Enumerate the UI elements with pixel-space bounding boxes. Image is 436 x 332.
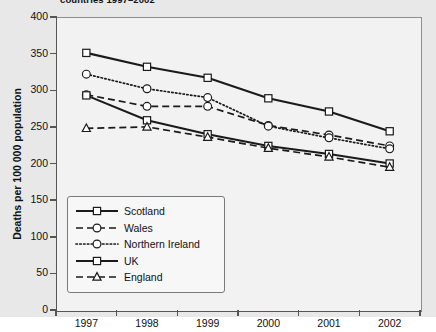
y-axis-tick-label: 300 [14,83,48,95]
y-axis-tick-mark [50,199,57,201]
y-axis-tick-mark [50,236,57,238]
y-axis-tick-mark [50,163,57,165]
x-axis-tick-label: 2001 [304,317,354,329]
y-axis-tick-label: 50 [14,266,48,278]
data-point-marker [386,145,394,153]
x-axis-tick-label: 2000 [243,317,293,329]
y-axis-tick-label: 200 [14,157,48,169]
x-axis-tick-mark [177,310,179,316]
y-axis-tick-label: 400 [14,10,48,22]
x-axis-tick-mark [359,310,361,316]
legend-item-label: Scotland [124,205,165,217]
y-axis-tick-mark [50,16,57,18]
x-axis-tick-mark [55,310,57,316]
x-axis-tick-label: 1999 [183,317,233,329]
series-line [86,95,389,163]
data-point-marker [264,122,272,130]
series-uk [83,92,394,167]
data-point-marker [265,95,272,102]
legend-item-label: UK [124,255,139,267]
data-point-marker [83,49,90,56]
y-axis-tick-mark [50,90,57,92]
series-scotland [83,49,394,135]
data-point-marker [143,63,150,70]
series-england [82,122,393,170]
y-axis-tick-label: 100 [14,230,48,242]
x-axis-tick-mark [298,310,300,316]
x-axis-tick-label: 2002 [365,317,415,329]
x-axis-tick-label: 1998 [122,317,172,329]
chart-figure: countries 1997–2002 Deaths per 100 000 p… [0,0,436,332]
data-point-marker [386,128,393,135]
x-axis-tick-mark [419,310,421,316]
data-point-marker [325,108,332,115]
y-axis-tick-label: 350 [14,47,48,59]
y-axis-tick-label: 0 [14,303,48,315]
legend-item-label: Northern Ireland [124,238,200,250]
y-axis-tick-mark [50,273,57,275]
y-axis-tick-label: 250 [14,120,48,132]
series-line [86,74,389,149]
data-point-marker [83,92,90,99]
legend-item-scotland: Scotland [75,203,218,220]
y-axis-tick-mark [50,53,57,55]
y-axis-tick-label: 150 [14,193,48,205]
series-line [86,127,389,167]
legend-item-wales: Wales [75,220,218,237]
data-point-marker [204,102,212,110]
x-axis-tick-label: 1997 [61,317,111,329]
data-point-marker [204,74,211,81]
chart-title: countries 1997–2002 [60,0,360,5]
series-line [86,53,389,131]
legend-sample-icon [75,204,119,218]
legend-item-england: England [75,269,218,286]
legend-item-label: Wales [124,222,153,234]
legend-sample-icon [75,221,119,235]
x-axis-tick-mark [237,310,239,316]
data-point-marker [82,70,90,78]
legend-sample-icon [75,270,119,284]
data-point-marker [143,102,151,110]
legend-item-uk: UK [75,253,218,270]
chart-legend: ScotlandWalesNorthern IrelandUKEngland [67,196,225,293]
legend-sample-icon [75,254,119,268]
x-axis-tick-mark [116,310,118,316]
legend-sample-icon [75,237,119,251]
data-point-marker [204,94,212,102]
data-point-marker [143,85,151,93]
legend-item-northern-ireland: Northern Ireland [75,236,218,253]
legend-item-label: England [124,271,163,283]
y-axis-tick-mark [50,126,57,128]
data-point-marker [325,134,333,142]
series-line [86,95,389,146]
